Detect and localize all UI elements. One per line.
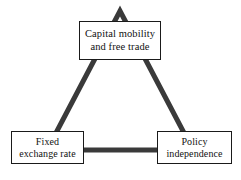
node-fixed-exchange-rate[interactable]: Fixed exchange rate xyxy=(11,131,84,164)
node-capital-mobility-line-1: Capital mobility xyxy=(85,28,155,40)
node-fixed-exchange-rate-line-2: exchange rate xyxy=(19,148,76,160)
node-capital-mobility-line-2: and free trade xyxy=(90,41,149,53)
node-policy-independence-line-2: independence xyxy=(166,148,222,160)
trinity-diagram: Capital mobility and free trade Fixed ex… xyxy=(0,0,241,180)
node-fixed-exchange-rate-line-1: Fixed xyxy=(36,136,59,148)
node-capital-mobility[interactable]: Capital mobility and free trade xyxy=(79,21,161,60)
node-policy-independence[interactable]: Policy independence xyxy=(157,131,232,164)
node-policy-independence-line-1: Policy xyxy=(181,136,207,148)
